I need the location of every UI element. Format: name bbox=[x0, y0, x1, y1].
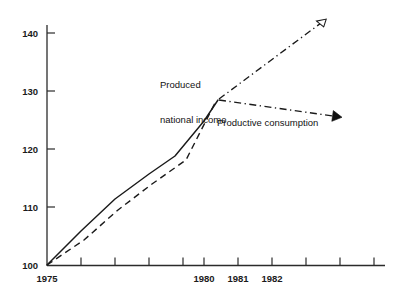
y-tick-label-100: 100 bbox=[8, 260, 38, 271]
annotation-produced-national-income-line1: Produced bbox=[160, 79, 227, 91]
y-tick-label-130: 130 bbox=[8, 86, 38, 97]
x-tick-label-1982: 1982 bbox=[255, 273, 289, 284]
y-tick-label-140: 140 bbox=[8, 28, 38, 39]
y-tick-label-110: 110 bbox=[8, 202, 38, 213]
series-projection-productive-consumption bbox=[219, 100, 340, 117]
y-tick-label-120: 120 bbox=[8, 144, 38, 155]
x-axis-ticks bbox=[81, 258, 374, 266]
chart-plot-area bbox=[0, 0, 393, 304]
annotation-productive-consumption: Productive consumption bbox=[217, 117, 318, 129]
x-tick-label-1981: 1981 bbox=[221, 273, 255, 284]
x-tick-label-1980: 1980 bbox=[187, 273, 221, 284]
chart-container: 140 130 120 110 100 1975 1980 1981 1982 … bbox=[0, 0, 393, 304]
annotation-produced-national-income: Produced national income bbox=[160, 56, 227, 148]
y-axis-ticks bbox=[47, 33, 55, 207]
x-tick-label-1975: 1975 bbox=[30, 273, 64, 284]
series-projection-produced-national-income bbox=[219, 20, 325, 99]
